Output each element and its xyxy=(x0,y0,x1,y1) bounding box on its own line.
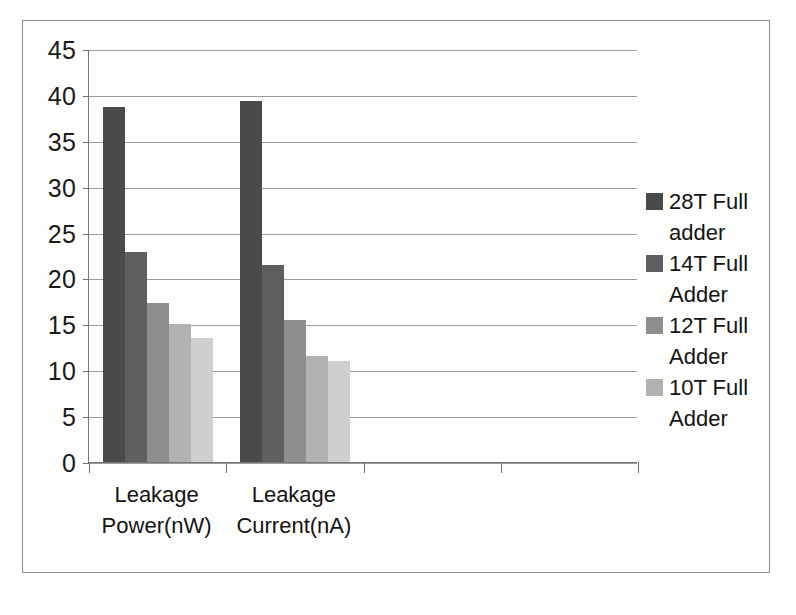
bar xyxy=(125,252,147,462)
bar xyxy=(240,101,262,462)
x-tick-mark xyxy=(364,462,365,473)
y-tick-mark xyxy=(83,142,89,143)
x-axis-category-label: LeakageCurrent(nA) xyxy=(225,479,362,541)
x-axis-category-label-line: Power(nW) xyxy=(88,510,225,541)
legend-item[interactable]: 28T Full adder xyxy=(646,186,790,248)
legend-item[interactable]: 12T Full Adder xyxy=(646,310,790,372)
bar xyxy=(103,107,125,462)
y-tick-label: 30 xyxy=(48,173,76,202)
x-tick-mark xyxy=(226,462,227,473)
x-axis-category-label-line: Current(nA) xyxy=(225,510,362,541)
x-tick-mark xyxy=(89,462,90,473)
legend-swatch-icon xyxy=(646,317,663,334)
bar xyxy=(191,338,213,462)
y-tick-label: 40 xyxy=(48,81,76,110)
x-axis-category-label-line: Leakage xyxy=(88,479,225,510)
legend-item-label: 14T Full Adder xyxy=(669,248,748,310)
x-axis-category-label: LeakagePower(nW) xyxy=(88,479,225,541)
bar-group xyxy=(103,50,213,462)
y-tick-mark xyxy=(83,50,89,51)
y-tick-mark xyxy=(83,371,89,372)
bar-chart: 454035302520151050 LeakagePower(nW)Leaka… xyxy=(0,0,796,615)
legend-swatch-icon xyxy=(646,255,663,272)
plot-area: 454035302520151050 xyxy=(88,50,637,463)
legend-item[interactable]: 10T Full Adder xyxy=(646,372,790,434)
y-tick-label: 5 xyxy=(62,403,76,432)
legend-swatch-icon xyxy=(646,379,663,396)
bar xyxy=(147,303,169,462)
bar xyxy=(284,320,306,462)
legend-swatch-icon xyxy=(646,193,663,210)
y-tick-label: 0 xyxy=(62,449,76,478)
y-tick-label: 15 xyxy=(48,311,76,340)
y-tick-mark xyxy=(83,279,89,280)
legend-item[interactable]: 14T Full Adder xyxy=(646,248,790,310)
x-axis-category-label-line: Leakage xyxy=(225,479,362,510)
bar-group xyxy=(240,50,350,462)
bar xyxy=(262,265,284,462)
y-tick-label: 25 xyxy=(48,219,76,248)
bar xyxy=(328,361,350,462)
bar xyxy=(169,324,191,462)
y-tick-mark xyxy=(83,188,89,189)
bar xyxy=(306,356,328,462)
x-tick-mark xyxy=(501,462,502,473)
legend-item-label: 28T Full adder xyxy=(669,186,748,248)
y-tick-mark xyxy=(83,96,89,97)
y-tick-label: 20 xyxy=(48,265,76,294)
chart-legend: 28T Full adder14T Full Adder12T Full Add… xyxy=(646,186,790,434)
y-tick-label: 35 xyxy=(48,127,76,156)
y-tick-mark xyxy=(83,417,89,418)
legend-item-label: 12T Full Adder xyxy=(669,310,748,372)
legend-item-label: 10T Full Adder xyxy=(669,372,748,434)
y-tick-label: 10 xyxy=(48,357,76,386)
y-tick-mark xyxy=(83,325,89,326)
x-tick-mark xyxy=(638,462,639,473)
y-tick-label: 45 xyxy=(48,36,76,65)
y-tick-mark xyxy=(83,234,89,235)
